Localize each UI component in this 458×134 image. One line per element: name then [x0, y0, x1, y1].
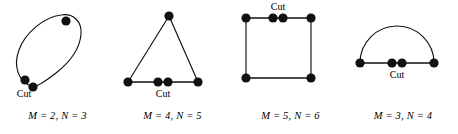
dot-bottom-left: [241, 73, 250, 82]
panel-closed-loop: Cut M = 2, N = 3: [0, 0, 115, 134]
dot-top-right: [306, 13, 315, 22]
dot-top-mid-b: [278, 13, 287, 22]
dot-base-right: [193, 77, 202, 86]
dot-mid-a: [387, 58, 396, 67]
cut-label-triangle: Cut: [145, 88, 181, 99]
dot-lower-left-a: [20, 75, 29, 84]
panel-semicircle: Cut M = 3, N = 4: [348, 0, 458, 134]
square-drawing: [233, 0, 348, 100]
cut-label-semicircle: Cut: [379, 69, 415, 80]
dot-mid-b: [397, 58, 406, 67]
panel-triangle: Cut M = 4, N = 5: [115, 0, 230, 134]
semicircle-arc: [360, 26, 434, 63]
semicircle-drawing: [348, 0, 458, 100]
closed-loop-drawing: [0, 0, 115, 100]
cut-label-square: Cut: [260, 1, 296, 12]
caption-square: M = 5, N = 6: [233, 110, 348, 121]
dot-upper-right: [61, 16, 70, 25]
dot-base-left: [123, 77, 132, 86]
dot-top-left: [241, 13, 250, 22]
triangle-right-side: [169, 16, 198, 82]
triangle-left-side: [128, 16, 169, 82]
dot-base-mid-a: [153, 77, 162, 86]
dot-apex: [164, 11, 173, 20]
figure-board: Cut M = 2, N = 3 Cut M = 4, N = 5: [0, 0, 458, 134]
dot-bottom-right: [306, 73, 315, 82]
cut-label-closed-loop: Cut: [6, 88, 42, 99]
caption-closed-loop: M = 2, N = 3: [0, 110, 115, 121]
dot-right-end: [429, 58, 438, 67]
caption-triangle: M = 4, N = 5: [115, 110, 230, 121]
dot-top-mid-a: [268, 13, 277, 22]
panel-square: Cut M = 5, N = 6: [233, 0, 348, 134]
dot-base-mid-b: [163, 77, 172, 86]
caption-semicircle: M = 3, N = 4: [348, 110, 458, 121]
dot-left-end: [355, 58, 364, 67]
triangle-drawing: [115, 0, 230, 100]
